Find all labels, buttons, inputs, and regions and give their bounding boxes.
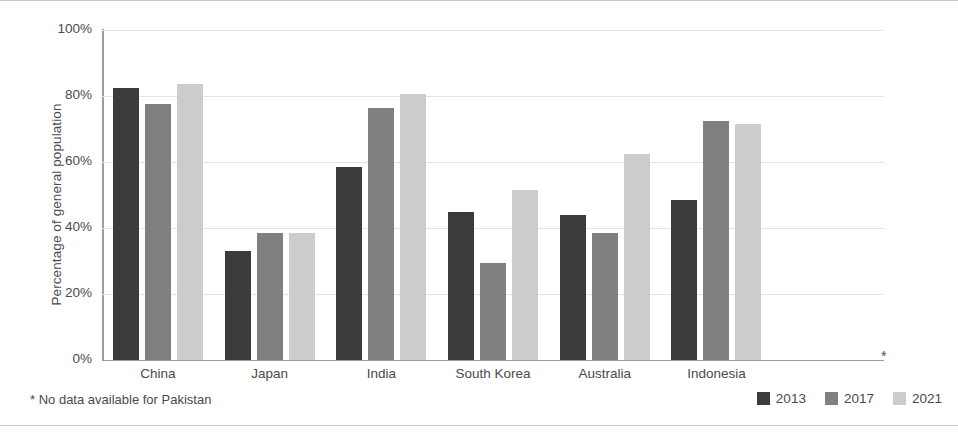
x-tick-label-indonesia: Indonesia [636,366,796,381]
bar-group-china [113,30,203,360]
legend-label-2017: 2017 [844,391,874,406]
legend-item-2017: 2017 [825,391,874,406]
bar-group-japan [225,30,315,360]
bar-south-korea-2013 [448,212,474,361]
y-tick-label-40: 40% [40,219,92,234]
legend-swatch-icon-2013 [757,392,770,405]
bar-australia-2017 [592,233,618,360]
bar-chart-figure: Percentage of general population 100%80%… [0,0,958,434]
figure-bottom-rule [0,425,958,426]
footnote: * No data available for Pakistan [30,392,211,407]
bar-japan-2013 [225,251,251,360]
bar-china-2013 [113,88,139,360]
bar-south-korea-2021 [512,190,538,360]
bar-china-2021 [177,84,203,360]
bar-group-indonesia [671,30,761,360]
bar-japan-2021 [289,233,315,360]
legend: 201320172021 [747,391,942,406]
legend-item-2021: 2021 [893,391,942,406]
bar-indonesia-2013 [671,200,697,360]
plot-area [102,30,884,360]
y-tick-label-0: 0% [40,351,92,366]
bar-japan-2017 [257,233,283,360]
bar-china-2017 [145,104,171,360]
legend-label-2021: 2021 [912,391,942,406]
y-tick-label-80: 80% [40,87,92,102]
bar-india-2013 [336,167,362,360]
missing-data-asterisk: * [881,348,886,364]
legend-item-2013: 2013 [757,391,806,406]
bar-india-2017 [368,108,394,360]
legend-swatch-icon-2017 [825,392,838,405]
bar-group-australia [560,30,650,360]
y-tick-label-20: 20% [40,285,92,300]
bar-group-south-korea [448,30,538,360]
bar-australia-2013 [560,215,586,360]
bar-indonesia-2017 [703,121,729,360]
bar-india-2021 [400,94,426,360]
legend-swatch-icon-2021 [893,392,906,405]
y-tick-label-60: 60% [40,153,92,168]
legend-label-2013: 2013 [776,391,806,406]
bar-south-korea-2017 [480,263,506,360]
bar-australia-2021 [624,154,650,360]
bar-group-india [336,30,426,360]
y-tick-label-100: 100% [40,21,92,36]
figure-top-rule [0,0,958,1]
bar-indonesia-2021 [735,124,761,360]
